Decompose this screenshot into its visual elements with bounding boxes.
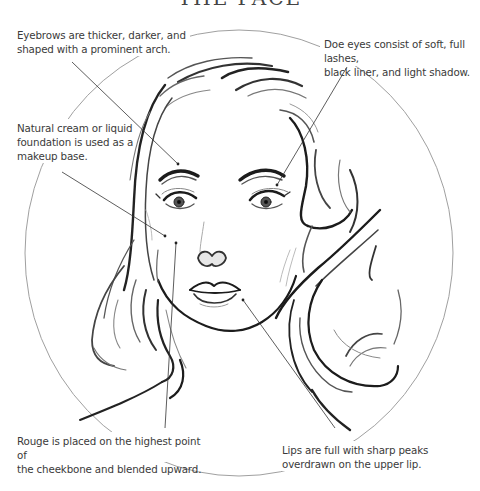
hair-top xyxy=(160,58,318,142)
leader-doe-eyes xyxy=(277,67,347,185)
annotation-lips-line-1: Lips are full with sharp peaks xyxy=(282,443,432,457)
annotation-doe-eyes-line-1: Doe eyes consist of soft, full lashes, xyxy=(324,37,480,65)
annotation-eyebrows-line-1: Eyebrows are thicker, darker, and xyxy=(17,28,192,42)
leader-foundation xyxy=(62,172,165,236)
hair-right xyxy=(276,118,401,392)
cheek-shading xyxy=(146,210,296,286)
annotation-rouge-line-2: the cheekbone and blended upward. xyxy=(17,462,207,476)
right-eye xyxy=(250,188,290,208)
annotation-foundation-line-2: foundation is used as a xyxy=(17,135,157,149)
annotation-foundation-line-1: Natural cream or liquid xyxy=(17,121,157,135)
annotation-doe-eyes: Doe eyes consist of soft, full lashes, b… xyxy=(324,37,480,79)
annotation-doe-eyes-line-2: black liner, and light shadow. xyxy=(324,65,480,79)
annotation-lips: Lips are full with sharp peaks overdrawn… xyxy=(282,443,432,471)
annotation-lips-line-2: overdrawn on the upper lip. xyxy=(282,457,432,471)
annotation-foundation-line-3: makeup base. xyxy=(17,149,157,163)
makeup-diagram: THE FACE xyxy=(0,0,480,491)
annotation-foundation: Natural cream or liquid foundation is us… xyxy=(17,121,157,163)
nose xyxy=(198,222,226,266)
annotation-eyebrows: Eyebrows are thicker, darker, and shaped… xyxy=(17,28,192,56)
eyebrows xyxy=(160,170,284,184)
annotation-rouge: Rouge is placed on the highest point of … xyxy=(17,434,207,476)
lips xyxy=(190,283,240,307)
circle-frame xyxy=(25,30,453,476)
leader-rouge xyxy=(165,243,176,428)
annotation-eyebrows-line-2: shaped with a prominent arch. xyxy=(17,42,192,56)
left-eye xyxy=(156,188,196,208)
annotation-rouge-line-1: Rouge is placed on the highest point of xyxy=(17,434,207,462)
face-outline xyxy=(157,250,297,331)
